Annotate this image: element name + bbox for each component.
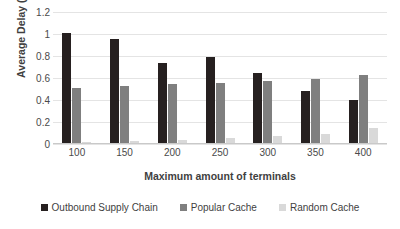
y-tick-label: 0.6 — [36, 73, 50, 84]
bar-chart: Average Delay (s) 00.20.40.60.811.2 1001… — [0, 0, 400, 229]
x-tick-label: 150 — [101, 147, 149, 158]
bar[interactable] — [120, 86, 129, 143]
bar[interactable] — [263, 81, 272, 143]
x-tick-label: 400 — [339, 147, 387, 158]
bar[interactable] — [158, 63, 167, 143]
bar[interactable] — [226, 138, 235, 144]
bar[interactable] — [349, 100, 358, 143]
legend-item[interactable]: Outbound Supply Chain — [41, 202, 158, 213]
bar-group — [244, 12, 292, 143]
y-tick-label: 0.8 — [36, 51, 50, 62]
gridline — [53, 144, 387, 145]
bar[interactable] — [130, 141, 139, 143]
bar[interactable] — [301, 91, 310, 143]
bar-group — [339, 12, 387, 143]
legend-label: Outbound Supply Chain — [52, 202, 158, 213]
chart-legend: Outbound Supply ChainPopular CacheRandom… — [0, 202, 400, 213]
bar[interactable] — [311, 79, 320, 143]
bar-group — [292, 12, 340, 143]
x-axis-title: Maximum amount of terminals — [53, 170, 387, 182]
legend-swatch-icon — [180, 204, 187, 211]
bar[interactable] — [253, 73, 262, 143]
x-tick-label: 300 — [244, 147, 292, 158]
y-tick-label: 0.2 — [36, 117, 50, 128]
legend-swatch-icon — [41, 204, 48, 211]
legend-item[interactable]: Popular Cache — [180, 202, 257, 213]
bar[interactable] — [206, 57, 215, 143]
bar[interactable] — [273, 136, 282, 143]
y-tick-label: 0.4 — [36, 95, 50, 106]
x-tick-label: 100 — [53, 147, 101, 158]
bar-group — [101, 12, 149, 143]
legend-label: Popular Cache — [191, 202, 257, 213]
bar[interactable] — [359, 75, 368, 143]
bar-group — [196, 12, 244, 143]
bar-group — [53, 12, 101, 143]
legend-swatch-icon — [279, 204, 286, 211]
x-tick-label: 250 — [196, 147, 244, 158]
x-axis-line — [53, 143, 387, 144]
bar[interactable] — [62, 33, 71, 143]
bar[interactable] — [216, 83, 225, 144]
x-tick-label: 200 — [148, 147, 196, 158]
y-tick-label: 1 — [44, 29, 50, 40]
x-axis-tick-labels: 100150200250300350400 — [53, 147, 387, 158]
bar[interactable] — [110, 39, 119, 144]
legend-item[interactable]: Random Cache — [279, 202, 359, 213]
bar[interactable] — [178, 140, 187, 143]
y-tick-label: 0 — [44, 139, 50, 150]
bar-groups — [53, 12, 387, 143]
legend-label: Random Cache — [290, 202, 359, 213]
bar[interactable] — [369, 128, 378, 143]
bar-group — [148, 12, 196, 143]
y-axis-tick-labels: 00.20.40.60.811.2 — [24, 7, 50, 144]
plot-area — [53, 12, 387, 144]
bar[interactable] — [168, 84, 177, 143]
bar[interactable] — [72, 88, 81, 143]
x-tick-label: 350 — [292, 147, 340, 158]
y-tick-label: 1.2 — [36, 7, 50, 18]
bar[interactable] — [321, 134, 330, 143]
bar[interactable] — [82, 142, 91, 143]
